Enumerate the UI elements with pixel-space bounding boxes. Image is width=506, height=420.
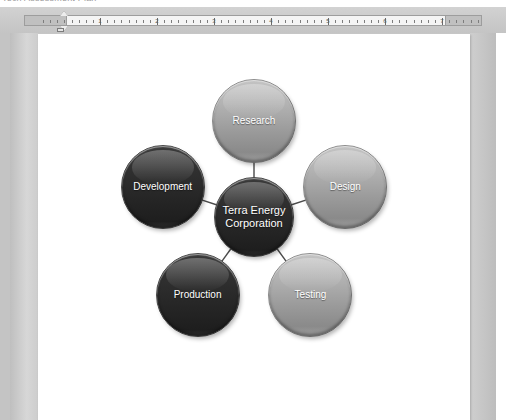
ruler-tick	[143, 20, 144, 23]
ruler-tick	[186, 20, 187, 23]
ruler-tick	[43, 20, 44, 23]
diagram-node-research[interactable]: Research	[212, 79, 296, 163]
first-line-indent-marker[interactable]	[60, 11, 68, 16]
ruler-tick	[300, 20, 301, 23]
ruler-tick	[378, 20, 379, 23]
node-label: Terra Energy Corporation	[215, 204, 293, 230]
ruler-tick	[121, 20, 122, 23]
ruler-tick	[228, 20, 229, 23]
ruler-tick	[414, 20, 415, 23]
ruler-tick	[235, 20, 236, 23]
ruler-tick	[371, 20, 372, 23]
page-left-shadow	[10, 33, 38, 420]
ruler-tick	[321, 20, 322, 23]
ruler-tick	[171, 20, 172, 23]
diagram-node-center[interactable]: Terra Energy Corporation	[214, 177, 294, 257]
ruler-unit-label: 2	[155, 17, 158, 26]
ruler-tick	[264, 20, 265, 23]
ruler-tick	[428, 20, 429, 23]
ruler-tick	[200, 20, 201, 23]
horizontal-ruler[interactable]: 1234567	[24, 15, 482, 26]
ruler-tick	[285, 20, 286, 23]
ruler-tick	[57, 20, 58, 23]
node-label: Design	[324, 181, 367, 193]
ruler-unit-label: 1	[98, 17, 101, 26]
ruler-ticks: 1234567	[25, 16, 481, 25]
page-right-shadow	[470, 33, 496, 420]
ruler-tick	[257, 20, 258, 23]
ruler-tick	[292, 20, 293, 23]
ruler-band: 1234567	[0, 7, 506, 33]
node-label: Production	[168, 289, 228, 301]
node-label: Development	[127, 181, 198, 193]
ruler-tick	[314, 20, 315, 23]
ruler-tick	[335, 20, 336, 23]
ruler-tick	[164, 20, 165, 23]
clipped-title-strip: Tech Assessment Plan	[0, 0, 506, 7]
ruler-tick	[278, 20, 279, 23]
ruler-unit-label: 4	[269, 17, 272, 26]
ruler-tick	[150, 20, 151, 23]
ruler-tick	[449, 20, 450, 23]
window-left-edge	[0, 33, 10, 420]
node-label: Testing	[289, 289, 333, 301]
ruler-tick	[364, 20, 365, 23]
ruler-tick	[471, 20, 472, 23]
ruler-tick	[243, 20, 244, 23]
ruler-unit-label: 6	[383, 17, 386, 26]
ruler-unit-label: 3	[212, 17, 215, 26]
ruler-tick	[50, 20, 51, 23]
ruler-unit-label: 7	[440, 17, 443, 26]
radial-diagram[interactable]: ResearchDesignTestingProductionDevelopme…	[38, 34, 470, 420]
ruler-tick	[357, 20, 358, 23]
diagram-node-production[interactable]: Production	[156, 253, 240, 337]
ruler-tick	[93, 20, 94, 23]
ruler-tick	[307, 20, 308, 23]
ruler-tick	[435, 20, 436, 23]
ruler-tick	[107, 20, 108, 23]
node-label: Research	[227, 115, 282, 127]
clipped-title-text: Tech Assessment Plan	[2, 0, 97, 3]
ruler-tick	[72, 20, 73, 23]
ruler-tick	[193, 20, 194, 23]
ruler-tick	[178, 20, 179, 23]
ruler-tick	[406, 20, 407, 23]
ruler-tick	[64, 20, 65, 23]
ruler-tick	[349, 20, 350, 23]
ruler-tick	[114, 20, 115, 23]
diagram-node-testing[interactable]: Testing	[268, 253, 352, 337]
ruler-tick	[478, 20, 479, 23]
ruler-tick	[250, 20, 251, 23]
window-right-edge	[496, 33, 506, 420]
ruler-tick	[79, 20, 80, 23]
document-editor-window: Tech Assessment Plan 1234567 ResearchDes…	[0, 0, 506, 420]
ruler-tick	[421, 20, 422, 23]
ruler-tick	[86, 20, 87, 23]
ruler-tick	[129, 20, 130, 23]
left-indent-marker[interactable]	[57, 28, 64, 32]
diagram-node-development[interactable]: Development	[121, 145, 205, 229]
ruler-tick	[463, 20, 464, 23]
ruler-tick	[342, 20, 343, 23]
ruler-tick	[207, 20, 208, 23]
ruler-unit-label: 5	[326, 17, 329, 26]
ruler-tick	[456, 20, 457, 23]
ruler-tick	[399, 20, 400, 23]
ruler-tick	[392, 20, 393, 23]
ruler-tick	[221, 20, 222, 23]
ruler-tick	[136, 20, 137, 23]
